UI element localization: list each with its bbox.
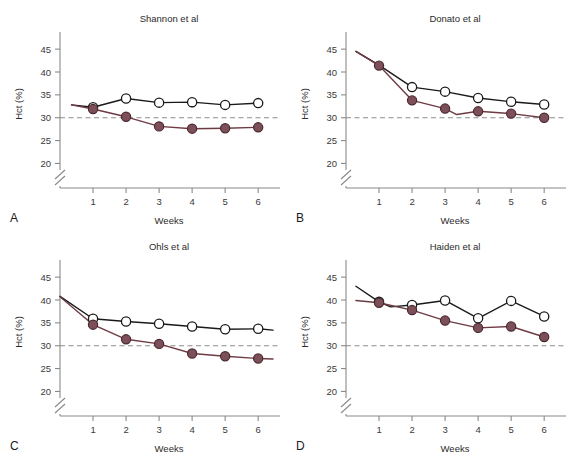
x-tick-label: 5 [223, 424, 228, 435]
x-axis-label: Weeks [155, 443, 184, 454]
data-point-control [474, 314, 483, 323]
data-point-treated [221, 124, 230, 133]
panel-title: Ohls et al [149, 241, 189, 252]
data-point-control [188, 98, 197, 107]
data-point-treated [507, 322, 516, 331]
data-point-treated [254, 123, 263, 132]
data-point-control [407, 82, 416, 91]
data-point-treated [540, 113, 549, 122]
y-tick-label: 35 [40, 89, 51, 100]
chart-svg-c: Ohls et al202530354045123456Hct (%)Weeks… [0, 228, 286, 456]
data-point-control [540, 100, 549, 109]
x-tick-label: 1 [90, 196, 95, 207]
data-point-treated [540, 332, 549, 341]
data-point-treated [254, 354, 263, 363]
panel-letter: B [296, 211, 304, 225]
x-tick-label: 2 [409, 424, 414, 435]
data-point-treated [407, 96, 416, 105]
series-line-treated [72, 105, 259, 129]
y-tick-label: 40 [326, 295, 337, 306]
chart-svg-d: Haiden et al202530354045123456Hct (%)Wee… [286, 228, 572, 456]
y-tick-label: 35 [40, 317, 51, 328]
y-tick-label: 25 [326, 363, 337, 374]
y-tick-label: 40 [326, 67, 337, 78]
data-point-treated [221, 352, 230, 361]
y-tick-label: 45 [40, 44, 51, 55]
data-point-treated [507, 109, 516, 118]
x-axis-label: Weeks [441, 443, 470, 454]
data-point-control [221, 100, 230, 109]
y-tick-label: 35 [326, 317, 337, 328]
y-tick-label: 35 [326, 89, 337, 100]
data-point-treated [374, 61, 383, 70]
y-tick-label: 20 [326, 158, 337, 169]
panel-title: Shannon et al [140, 13, 199, 24]
y-tick-label: 45 [326, 44, 337, 55]
chart-panel-c: Ohls et al202530354045123456Hct (%)Weeks… [0, 228, 286, 456]
y-tick-label: 30 [40, 112, 51, 123]
data-point-control [188, 322, 197, 331]
chart-panel-a: Shannon et al202530354045123456Hct (%)We… [0, 0, 286, 228]
y-axis-label: Hct (%) [299, 316, 310, 348]
series-line-control [356, 51, 544, 104]
x-tick-label: 5 [223, 196, 228, 207]
y-tick-label: 45 [40, 272, 51, 283]
data-point-treated [154, 122, 163, 131]
x-axis-label: Weeks [441, 215, 470, 226]
data-point-control [154, 319, 163, 328]
x-tick-label: 5 [509, 424, 514, 435]
y-axis-label: Hct (%) [13, 88, 24, 120]
data-point-control [540, 312, 549, 321]
series-line-treated [356, 300, 544, 337]
data-point-control [121, 317, 130, 326]
data-point-control [221, 325, 230, 334]
data-point-treated [88, 104, 97, 113]
x-tick-label: 2 [123, 424, 128, 435]
data-point-control [254, 98, 263, 107]
x-tick-label: 1 [90, 424, 95, 435]
x-tick-label: 2 [409, 196, 414, 207]
x-tick-label: 6 [256, 424, 261, 435]
y-axis-label: Hct (%) [13, 316, 24, 348]
data-point-treated [474, 107, 483, 116]
x-tick-label: 6 [256, 196, 261, 207]
data-point-treated [440, 104, 449, 113]
y-axis-label: Hct (%) [299, 88, 310, 120]
y-tick-label: 40 [40, 67, 51, 78]
data-point-control [440, 87, 449, 96]
panel-title: Donato et al [429, 13, 480, 24]
x-tick-label: 4 [189, 196, 194, 207]
x-tick-label: 4 [189, 424, 194, 435]
panel-title: Haiden et al [430, 241, 481, 252]
hct-four-panel-figure: Shannon et al202530354045123456Hct (%)We… [0, 0, 572, 456]
data-point-control [440, 296, 449, 305]
x-tick-label: 1 [376, 196, 381, 207]
y-tick-label: 20 [40, 386, 51, 397]
y-tick-label: 30 [326, 112, 337, 123]
x-tick-label: 3 [442, 196, 447, 207]
chart-svg-a: Shannon et al202530354045123456Hct (%)We… [0, 0, 286, 228]
panel-letter: A [10, 211, 18, 225]
y-tick-label: 45 [326, 272, 337, 283]
x-tick-label: 6 [542, 424, 547, 435]
y-tick-label: 30 [326, 340, 337, 351]
x-tick-label: 3 [442, 424, 447, 435]
x-tick-label: 5 [509, 196, 514, 207]
x-tick-label: 4 [475, 424, 480, 435]
y-tick-label: 20 [326, 386, 337, 397]
x-tick-label: 1 [376, 424, 381, 435]
data-point-treated [154, 339, 163, 348]
data-point-control [154, 98, 163, 107]
x-tick-label: 3 [156, 196, 161, 207]
data-point-treated [88, 320, 97, 329]
x-tick-label: 2 [123, 196, 128, 207]
panel-letter: C [10, 439, 19, 453]
data-point-treated [121, 112, 130, 121]
y-tick-label: 25 [326, 135, 337, 146]
data-point-control [507, 296, 516, 305]
data-point-control [507, 97, 516, 106]
data-point-control [474, 93, 483, 102]
data-point-treated [440, 316, 449, 325]
y-tick-label: 20 [40, 158, 51, 169]
x-tick-label: 4 [475, 196, 480, 207]
